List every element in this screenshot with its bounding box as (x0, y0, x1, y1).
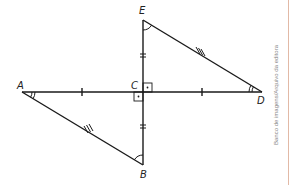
label-B: B (140, 169, 147, 180)
label-C: C (131, 80, 138, 91)
angle-arc-E (143, 25, 152, 30)
margin-rule (288, 0, 289, 185)
segment-AB (22, 92, 143, 165)
image-credit: Banco de imagens/Arquivo da editora (273, 45, 279, 145)
right-angle-dot-upper (147, 87, 149, 89)
geometry-diagram: A B C D E (0, 0, 295, 190)
angle-arc-B (134, 155, 143, 160)
segment-ED (143, 20, 262, 92)
label-A: A (16, 80, 24, 91)
right-angle-dot-lower (138, 96, 140, 98)
label-D: D (257, 95, 265, 106)
label-E: E (139, 5, 146, 16)
